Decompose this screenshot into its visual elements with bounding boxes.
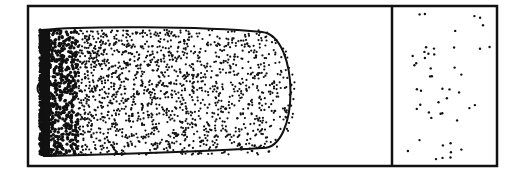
tube-diagram [0,0,523,179]
diagram-stage [0,0,523,179]
sparse-particle-region [407,13,491,161]
outer-container [28,6,497,166]
gradient-particle-region [38,28,295,156]
left-end-cap [40,82,44,96]
